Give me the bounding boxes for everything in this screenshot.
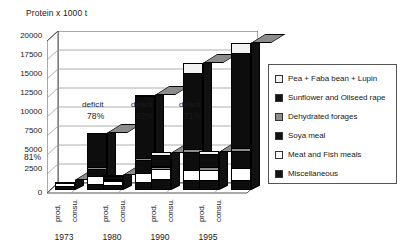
bar-side-face [171, 149, 180, 190]
legend-item-dehydrated-forages: Dehydrated forages [275, 112, 357, 121]
annotation-deficit-label: deficit [82, 100, 104, 109]
y-tick-label-20000: 20000 [2, 31, 42, 40]
y-tick-label-0: 0 [2, 188, 42, 197]
legend-item-meat-and-fish-meals: Meat and Fish meals [275, 150, 361, 159]
y-tick-label-10000: 10000 [2, 107, 42, 116]
legend-swatch-soya-meal [275, 132, 283, 140]
bar-segment-miscellaneous [151, 179, 171, 190]
annotation-deficit-1990: deficit 62% [131, 100, 153, 121]
legend-label-soya-meal: Soya meal [288, 131, 325, 140]
y-tick-label-2500: 2500 [2, 164, 42, 173]
x-tick-consu-1990: consu. [166, 199, 175, 222]
legend-swatch-pea-faba-lupin [275, 75, 283, 83]
annotation-81-percent: 81% [24, 152, 41, 162]
annotation-deficit-value: 71% [184, 111, 201, 121]
x-group-label-1995: 1995 [188, 232, 228, 242]
y-tick-label-12500: 12500 [2, 88, 42, 97]
y-tick-label-15000: 15000 [2, 69, 42, 78]
legend-item-pea-faba-lupin: Pea + Faba bean + Lupin [275, 74, 377, 83]
x-tick-prod-1973: prod. [53, 204, 62, 222]
chart-axis-title: Protein x 1000 t [26, 8, 87, 18]
annotation-deficit-value: 62% [136, 111, 153, 121]
annotation-deficit-1980: deficit 78% [82, 100, 104, 121]
bar-1980-prod [103, 175, 123, 190]
chart-legend: Pea + Faba bean + Lupin Sunflower and Oi… [268, 64, 397, 184]
legend-label-pea-faba-lupin: Pea + Faba bean + Lupin [288, 74, 377, 83]
chart-container: Protein x 1000 t 20000 17500 15000 12500… [0, 0, 401, 247]
bar-segment-miscellaneous [55, 186, 75, 190]
bar-side-face [219, 148, 228, 190]
bar-1973-prod [55, 180, 75, 190]
bar-1995-prod [199, 152, 219, 190]
x-tick-prod-1990: prod. [149, 204, 158, 222]
bar-segment-sunflower-oilseed-rape [151, 155, 171, 167]
annotation-deficit-label: deficit [131, 100, 153, 109]
legend-swatch-sunflower-oilseed-rape [275, 94, 283, 102]
legend-swatch-dehydrated-forages [275, 113, 283, 121]
legend-label-dehydrated-forages: Dehydrated forages [288, 112, 357, 121]
bar-segment-miscellaneous [103, 185, 123, 190]
x-group-label-1990: 1990 [140, 232, 180, 242]
bar-segment-sunflower-oilseed-rape [199, 154, 219, 168]
x-group-label-1973: 1973 [44, 232, 84, 242]
legend-label-sunflower-oilseed-rape: Sunflower and Oilseed rape [288, 93, 385, 102]
legend-item-miscellaneous: Miscellaneous [275, 169, 338, 178]
annotation-deficit-label: deficit [179, 100, 201, 109]
x-tick-consu-1973: consu. [70, 199, 79, 222]
bar-1990-prod [151, 153, 171, 190]
legend-item-sunflower-oilseed-rape: Sunflower and Oilseed rape [275, 93, 385, 102]
bar-segment-miscellaneous [199, 180, 219, 190]
bar-side-face [251, 39, 260, 190]
x-tick-consu-1980: consu. [118, 199, 127, 222]
x-tick-prod-1980: prod. [101, 204, 110, 222]
bar-segment-miscellaneous [231, 180, 251, 190]
y-tick-label-17500: 17500 [2, 50, 42, 59]
bar-segment-sunflower-oilseed-rape [87, 133, 107, 168]
legend-swatch-meat-and-fish-meals [275, 151, 283, 159]
bar-1995-consu [231, 43, 251, 190]
legend-swatch-miscellaneous [275, 170, 283, 178]
x-group-label-1980: 1980 [92, 232, 132, 242]
y-tick-label-7500: 7500 [2, 126, 42, 135]
annotation-deficit-value: 78% [87, 111, 104, 121]
legend-label-miscellaneous: Miscellaneous [288, 169, 338, 178]
legend-label-meat-and-fish-meals: Meat and Fish meals [288, 150, 361, 159]
x-tick-consu-1995: consu. [214, 199, 223, 222]
x-tick-prod-1995: prod. [197, 204, 206, 222]
legend-item-soya-meal: Soya meal [275, 131, 325, 140]
bar-segment-sunflower-oilseed-rape [231, 53, 251, 149]
bar-segment-soya-meal [231, 151, 251, 169]
annotation-deficit-1995: deficit 71% [179, 100, 201, 121]
